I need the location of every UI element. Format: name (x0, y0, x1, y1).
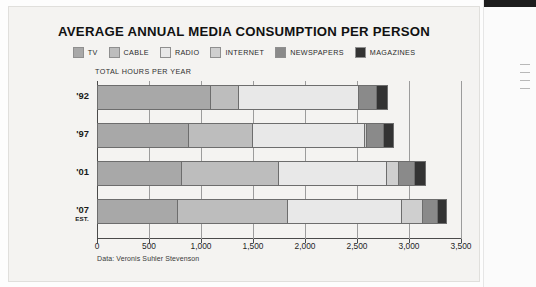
legend-item-newspapers: NEWSPAPERS (275, 47, 344, 58)
y-axis-label: '92 (49, 90, 89, 101)
legend-swatch-icon (109, 47, 120, 58)
bar-segment-tv (97, 85, 211, 110)
page-edge-tick (520, 64, 530, 65)
bar-row (97, 199, 461, 224)
plot-area: 05001,0001,5002,0002,5003,0003,500'92'97… (97, 81, 461, 239)
x-axis-tick-label: 0 (74, 241, 120, 251)
gridline (461, 81, 462, 239)
x-axis-tick-label: 2,500 (334, 241, 380, 251)
axis-caption: TOTAL HOURS PER YEAR (95, 67, 191, 76)
page-edge-tick (520, 72, 530, 73)
stacked-bar (97, 85, 388, 110)
bar-segment-tv (97, 199, 178, 224)
page-edge-tick (520, 80, 530, 81)
page-edge-tick (520, 88, 530, 89)
bar-segment-radio (253, 123, 365, 148)
x-axis-tick-label: 1,000 (178, 241, 224, 251)
bar-segment-newspapers (399, 161, 416, 186)
legend-label: CABLE (124, 48, 149, 57)
legend-swatch-icon (355, 47, 366, 58)
bar-segment-magazines (384, 123, 394, 148)
page-edge (483, 0, 536, 287)
bar-segment-radio (288, 199, 401, 224)
legend-label: RADIO (175, 48, 200, 57)
legend-label: NEWSPAPERS (290, 48, 344, 57)
x-axis-tick-label: 3,500 (438, 241, 484, 251)
screenshot-root: AVERAGE ANNUAL MEDIA CONSUMPTION PER PER… (0, 0, 536, 287)
bar-segment-tv (97, 123, 189, 148)
bar-segment-newspapers (423, 199, 439, 224)
bar-segment-radio (239, 85, 359, 110)
bar-row (97, 85, 461, 110)
bar-segment-tv (97, 161, 182, 186)
bar-segment-cable (189, 123, 253, 148)
x-axis-line (97, 238, 461, 239)
bar-segment-radio (279, 161, 387, 186)
y-axis-label: '01 (49, 166, 89, 177)
bar-row (97, 123, 461, 148)
chart-title: AVERAGE ANNUAL MEDIA CONSUMPTION PER PER… (9, 24, 479, 39)
legend-swatch-icon (73, 47, 84, 58)
legend-item-tv: TV (73, 47, 98, 58)
bar-row (97, 161, 461, 186)
y-axis-label-year: '01 (76, 166, 89, 177)
x-axis-tick-label: 2,000 (282, 241, 328, 251)
legend-label: INTERNET (225, 48, 264, 57)
bar-segment-cable (178, 199, 288, 224)
bar-segment-internet (402, 199, 423, 224)
bar-segment-cable (182, 161, 279, 186)
chart-card: AVERAGE ANNUAL MEDIA CONSUMPTION PER PER… (8, 6, 480, 282)
legend-item-internet: INTERNET (210, 47, 264, 58)
legend-label: MAGAZINES (370, 48, 415, 57)
legend-item-radio: RADIO (160, 47, 200, 58)
source-note: Data: Veronis Suhler Stevenson (97, 255, 199, 262)
bar-segment-newspapers (359, 85, 377, 110)
y-axis-label-year: '92 (76, 90, 89, 101)
legend-item-magazines: MAGAZINES (355, 47, 415, 58)
bar-segment-newspapers (367, 123, 384, 148)
bar-segment-magazines (377, 85, 388, 110)
bar-segment-cable (211, 85, 239, 110)
bar-segment-magazines (438, 199, 447, 224)
y-axis-label: '97 (49, 128, 89, 139)
x-axis-tick-label: 1,500 (230, 241, 276, 251)
x-axis-tick-label: 500 (126, 241, 172, 251)
y-axis-label-year: '07 (76, 204, 89, 215)
stacked-bar (97, 161, 426, 186)
legend-swatch-icon (210, 47, 221, 58)
y-axis-label-note: EST. (49, 215, 89, 222)
y-axis-label-year: '97 (76, 128, 89, 139)
page-edge-black-bar (484, 0, 536, 7)
bar-segment-magazines (415, 161, 425, 186)
y-axis-label: '07EST. (49, 204, 89, 222)
legend-swatch-icon (275, 47, 286, 58)
stacked-bar (97, 199, 447, 224)
legend-label: TV (88, 48, 98, 57)
stacked-bar (97, 123, 394, 148)
bar-segment-internet (387, 161, 398, 186)
legend-item-cable: CABLE (109, 47, 149, 58)
legend-swatch-icon (160, 47, 171, 58)
chart-legend: TVCABLERADIOINTERNETNEWSPAPERSMAGAZINES (9, 47, 479, 58)
x-axis-tick-label: 3,000 (386, 241, 432, 251)
